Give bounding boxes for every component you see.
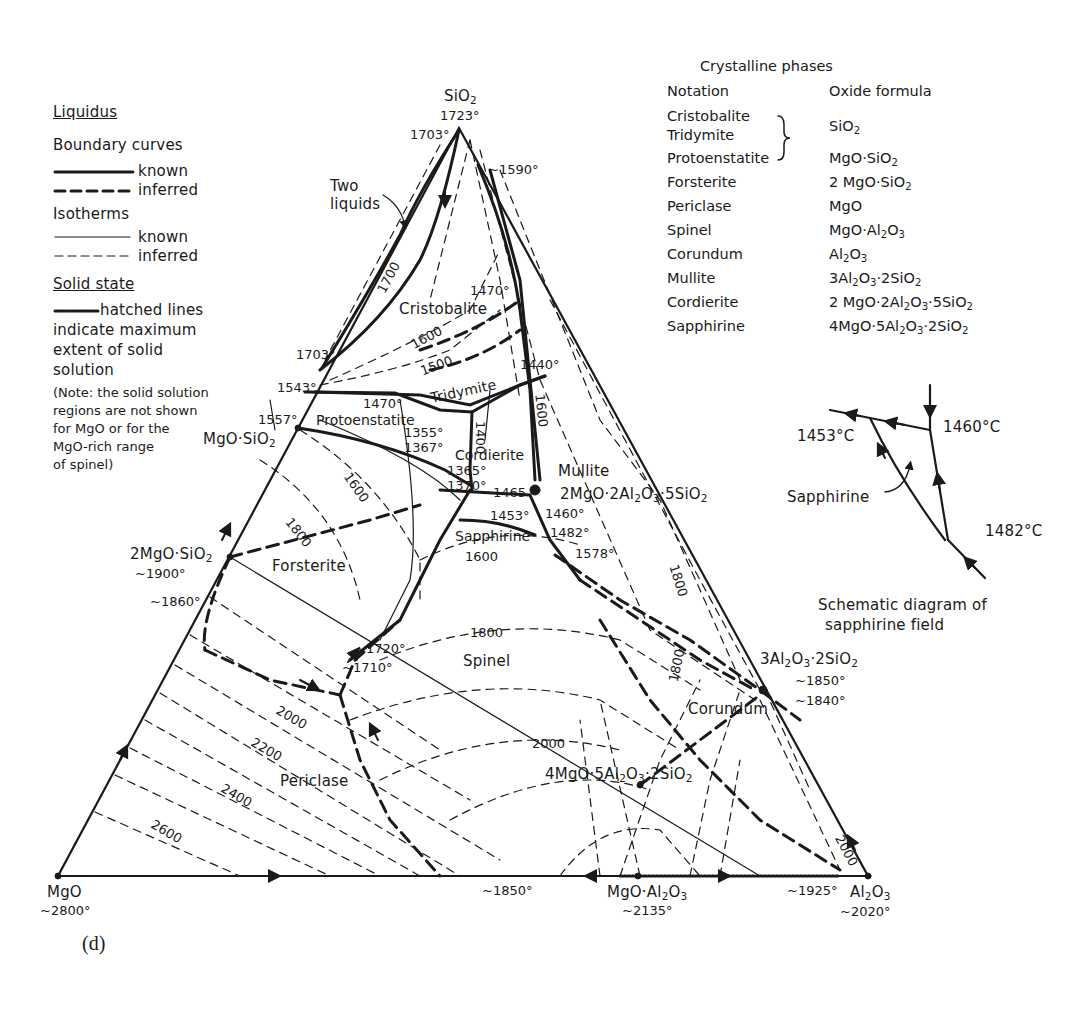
formula-mullite: 3Al2O3·2SiO2 bbox=[829, 269, 973, 293]
formula-cordierite: 2 MgO·2Al2O3·5SiO2 bbox=[829, 293, 973, 317]
isotherm-1400: 1400 bbox=[473, 421, 488, 454]
phase-cordierite: Cordierite bbox=[667, 293, 829, 317]
phases-header-notation: Notation bbox=[667, 82, 829, 106]
phases-table: Notation Oxide formula Cristobalite Trid… bbox=[667, 82, 973, 341]
phase-tridymite: Tridymite bbox=[667, 127, 734, 143]
temp-1710: ~1710° bbox=[342, 660, 392, 675]
field-two-liquids-2: liquids bbox=[330, 195, 380, 213]
phase-row-silica: Cristobalite Tridymite bbox=[667, 106, 829, 149]
inset-caption-2: sapphirine field bbox=[825, 616, 944, 634]
legend-isotherms-title: Isotherms bbox=[53, 205, 129, 223]
formula-al2o3: Al2O3 bbox=[829, 245, 973, 269]
temp-1578: 1578° bbox=[575, 546, 615, 561]
phase-periclase: Periclase bbox=[667, 197, 829, 221]
formula-sio2: SiO2 bbox=[829, 106, 973, 149]
temp-1925: ~1925° bbox=[787, 883, 837, 898]
compound-mullite-temp2: ~1840° bbox=[795, 693, 845, 708]
compound-forsterite-temp: ~1900° bbox=[135, 566, 185, 581]
legend-isotherm-known: known bbox=[138, 228, 188, 246]
temp-1482: 1482° bbox=[550, 525, 590, 540]
inset-t1482: 1482°C bbox=[985, 522, 1042, 540]
legend-note-1: (Note: the solid solution bbox=[53, 385, 209, 400]
isotherm-1800-spinel: 1800 bbox=[470, 625, 503, 640]
legend-solid-line-1: hatched lines bbox=[100, 301, 203, 319]
phase-forsterite: Forsterite bbox=[667, 173, 829, 197]
temp-1453: 1453° bbox=[490, 508, 530, 523]
phases-title: Crystalline phases bbox=[700, 58, 833, 74]
legend-note-4: MgO-rich range bbox=[53, 439, 154, 454]
legend-solid-state-title: Solid state bbox=[53, 275, 135, 293]
temp-1720: ~1720° bbox=[355, 641, 405, 656]
inset-t1460: 1460°C bbox=[943, 418, 1000, 436]
compound-sapphirine: 4MgO·5Al2O3·2SiO2 bbox=[545, 765, 693, 784]
isotherm-1600-sapph: 1600 bbox=[465, 549, 498, 564]
vertex-mgo-temp: ~2800° bbox=[40, 903, 90, 918]
phase-spinel: Spinel bbox=[667, 221, 829, 245]
vertex-sio2-temp: 1723° bbox=[440, 108, 480, 123]
temp-1860: ~1860° bbox=[150, 594, 200, 609]
temp-1440: 1440° bbox=[520, 357, 560, 372]
phase-sapphirine: Sapphirine bbox=[667, 317, 829, 341]
inset-caption-1: Schematic diagram of bbox=[818, 596, 987, 614]
formula-2mgo-sio2: 2 MgO·SiO2 bbox=[829, 173, 973, 197]
temp-1365: 1365° bbox=[447, 463, 487, 478]
temp-1355: 1355° bbox=[404, 425, 444, 440]
formula-spinel: MgO·Al2O3 bbox=[829, 221, 973, 245]
phases-header-formula: Oxide formula bbox=[829, 82, 973, 106]
temp-1703-left: 1703° bbox=[296, 347, 336, 362]
figure-label: (d) bbox=[82, 932, 105, 955]
compound-forsterite: 2MgO·SiO2 bbox=[130, 545, 213, 564]
temp-1470-mid: 1470° bbox=[363, 396, 403, 411]
field-corundum: Corundum bbox=[688, 700, 768, 718]
legend-liquidus-title: Liquidus bbox=[53, 103, 117, 121]
field-spinel: Spinel bbox=[463, 652, 510, 670]
phase-protoenstatite: Protoenstatite bbox=[667, 149, 829, 173]
legend-solid-line-3: extent of solid bbox=[53, 341, 163, 359]
compound-spinel-temp: ~2135° bbox=[622, 903, 672, 918]
vertex-mgo: MgO bbox=[47, 883, 82, 901]
compound-mullite-temp1: ~1850° bbox=[795, 673, 845, 688]
temp-1590: ~1590° bbox=[488, 162, 538, 177]
compound-mullite: 3Al2O3·2SiO2 bbox=[760, 650, 858, 669]
field-sapphirine: Sapphirine bbox=[455, 528, 530, 544]
formula-mgo: MgO bbox=[829, 197, 973, 221]
vertex-sio2: SiO2 bbox=[444, 87, 477, 106]
temp-1367: 1367° bbox=[404, 440, 444, 455]
field-cordierite: Cordierite bbox=[455, 447, 524, 463]
inset-t1453: 1453°C bbox=[797, 427, 854, 445]
field-cristobalite: Cristobalite bbox=[399, 300, 487, 318]
temp-1470-top: 1470° bbox=[470, 283, 510, 298]
vertex-al2o3: Al2O3 bbox=[850, 883, 891, 902]
compound-enstatite: MgO·SiO2 bbox=[203, 430, 276, 449]
temp-1370: 1370° bbox=[447, 478, 487, 493]
phase-corundum: Corundum bbox=[667, 245, 829, 269]
temp-1460: 1460° bbox=[545, 506, 585, 521]
legend-boundary-inferred: inferred bbox=[138, 181, 198, 199]
compound-cordierite: 2MgO·2Al2O3·5SiO2 bbox=[560, 485, 708, 504]
temp-1703-top: 1703° bbox=[410, 127, 450, 142]
legend-note-5: of spinel) bbox=[53, 457, 113, 472]
legend-note-3: for MgO or for the bbox=[53, 421, 170, 436]
phase-cristobalite: Cristobalite bbox=[667, 108, 750, 124]
field-protoenstatite: Protoenstatite bbox=[316, 412, 415, 428]
temp-1465: 1465 bbox=[493, 485, 526, 500]
temp-1850-base: ~1850° bbox=[482, 883, 532, 898]
legend-solid-line-2: indicate maximum bbox=[53, 321, 196, 339]
formula-mgo-sio2: MgO·SiO2 bbox=[829, 149, 973, 173]
legend-solid-line-4: solution bbox=[53, 361, 114, 379]
field-two-liquids-1: Two bbox=[330, 177, 359, 195]
temp-1557: 1557° bbox=[258, 412, 298, 427]
isotherm-2000-spinel: 2000 bbox=[532, 736, 565, 751]
legend-isotherm-inferred: inferred bbox=[138, 247, 198, 265]
inset-sapphirine-label: Sapphirine bbox=[787, 488, 870, 506]
phase-mullite: Mullite bbox=[667, 269, 829, 293]
legend-boundary-known: known bbox=[138, 162, 188, 180]
legend-note-2: regions are not shown bbox=[53, 403, 197, 418]
field-forsterite: Forsterite bbox=[272, 557, 346, 575]
temp-1543: 1543° bbox=[277, 380, 317, 395]
legend-boundary-title: Boundary curves bbox=[53, 136, 183, 154]
compound-spinel: MgO·Al2O3 bbox=[607, 883, 687, 902]
field-periclase: Periclase bbox=[280, 772, 349, 790]
formula-sapphirine: 4MgO·5Al2O3·2SiO2 bbox=[829, 317, 973, 341]
field-mullite: Mullite bbox=[558, 462, 609, 480]
